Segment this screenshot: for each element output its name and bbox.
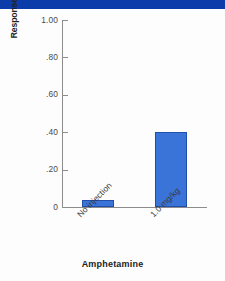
y-tick-label: .60 bbox=[16, 89, 58, 99]
y-tick-label-wrap: .40 bbox=[14, 127, 58, 137]
y-tick-label-wrap: .80 bbox=[14, 52, 58, 62]
y-tick-label: 1.00 bbox=[16, 15, 58, 25]
y-tick-label: 0 bbox=[16, 202, 58, 212]
y-tick-label-wrap: .60 bbox=[14, 89, 58, 99]
y-tick-label-wrap: .20 bbox=[14, 164, 58, 174]
y-tick-label: .80 bbox=[16, 52, 58, 62]
y-tick-label-wrap: 1.00 bbox=[14, 15, 58, 25]
y-tick-label-wrap: 0 bbox=[14, 202, 58, 212]
chart-figure: Responses (in seconds) 1.00.80.60.40.200… bbox=[0, 0, 225, 281]
y-tick-mark bbox=[62, 207, 68, 208]
bars-layer bbox=[62, 20, 207, 207]
header-banner-bar bbox=[0, 0, 225, 9]
y-tick-label: .20 bbox=[16, 164, 58, 174]
y-tick-label: .40 bbox=[16, 127, 58, 137]
x-axis-title: Amphetamine bbox=[0, 259, 225, 269]
